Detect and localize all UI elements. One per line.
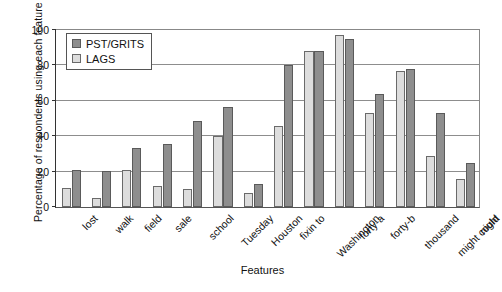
bar-pst-grits	[163, 144, 172, 207]
bar-group	[304, 30, 323, 207]
bar-pst-grits	[466, 163, 475, 207]
x-axis-title-text: Features	[241, 264, 284, 276]
bar-pst-grits	[345, 39, 354, 207]
x-axis-tick-label: forty-a	[357, 212, 387, 242]
bar-lags	[304, 51, 313, 207]
x-axis-tick-label: walk	[112, 212, 135, 235]
y-axis-tick-label: 40	[15, 130, 56, 142]
bar-group	[244, 30, 263, 207]
bar-pst-grits	[72, 170, 81, 207]
legend-entry: PST/GRITS	[72, 36, 144, 51]
bar-group	[396, 30, 415, 207]
bar-lags	[365, 113, 374, 207]
bar-lags	[92, 198, 101, 207]
bar-lags	[426, 156, 435, 207]
y-axis-tick-label: 60	[15, 95, 56, 107]
bar-group	[183, 30, 202, 207]
bar-pst-grits	[284, 65, 293, 207]
x-axis-tick-label: thousand	[422, 212, 461, 251]
bar-lags	[244, 193, 253, 207]
bar-lags	[335, 35, 344, 207]
bar-group	[153, 30, 172, 207]
y-axis-tick-label: 100	[15, 24, 56, 36]
bar-group	[274, 30, 293, 207]
legend-label: PST/GRITS	[86, 38, 144, 50]
legend-label: LAGS	[86, 53, 115, 65]
bar-group	[335, 30, 354, 207]
y-axis-tick-label: 20	[15, 166, 56, 178]
x-axis-tick-label: school	[205, 212, 235, 242]
bar-pst-grits	[436, 113, 445, 207]
bar-pst-grits	[314, 51, 323, 207]
bar-lags	[456, 179, 465, 207]
bar-lags	[62, 188, 71, 207]
y-axis-title: Percentage of respondents using each fea…	[32, 12, 44, 222]
bar-lags	[274, 126, 283, 207]
bar-lags	[396, 71, 405, 207]
x-axis-tick-label: Tuesday	[239, 212, 276, 249]
y-axis-tick-label: 80	[15, 59, 56, 71]
x-axis-tick-label: sale	[172, 212, 194, 234]
legend-entry: LAGS	[72, 51, 144, 66]
bar-pst-grits	[102, 171, 111, 207]
bar-pst-grits	[223, 107, 232, 207]
bar-pst-grits	[132, 148, 141, 207]
chart-legend: PST/GRITSLAGS	[66, 33, 152, 70]
x-axis-tick-label: forty-b	[387, 212, 417, 242]
bar-pst-grits	[375, 94, 384, 207]
bar-group	[426, 30, 445, 207]
bar-lags	[122, 170, 131, 207]
bar-group	[456, 30, 475, 207]
bar-lags	[183, 189, 192, 207]
bar-pst-grits	[254, 184, 263, 207]
x-axis-tick-label: lost	[80, 212, 100, 232]
legend-swatch-pst	[72, 39, 81, 48]
legend-swatch-lags	[72, 54, 81, 63]
bar-pst-grits	[406, 69, 415, 207]
y-axis-tick-label: 0	[15, 201, 56, 213]
x-axis-title: Features	[0, 264, 497, 276]
x-axis-tick-label: field	[142, 212, 164, 234]
bar-group	[213, 30, 232, 207]
bar-pst-grits	[193, 121, 202, 207]
bar-group	[365, 30, 384, 207]
bar-lags	[213, 136, 222, 207]
bar-lags	[153, 186, 162, 207]
